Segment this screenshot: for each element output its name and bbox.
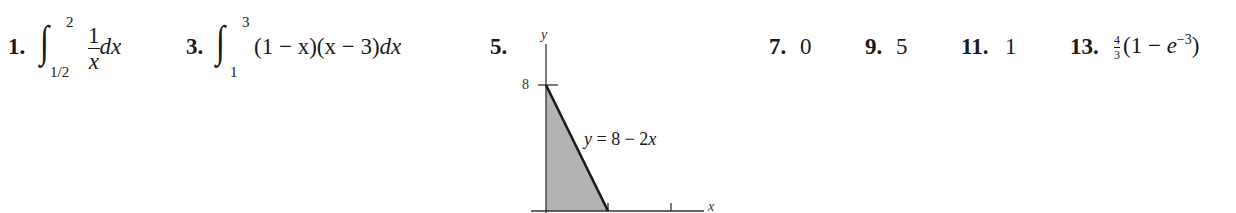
y-axis-label: y [541,27,547,43]
problem-9-number: 9. [865,34,882,60]
problem-1-integrand: 1 x dx [88,24,121,73]
problem-13-answer: 4 3 (1 − e−3) [1114,32,1199,61]
problem-9-answer: 5 [896,34,908,60]
problem-7-number: 7. [769,34,786,60]
coef-denominator: 3 [1114,49,1120,61]
x-axis-label: x [708,199,714,213]
problem-13-number: 13. [1070,34,1099,60]
problem-7-answer: 0 [800,34,812,60]
problem-3-integrand: (1 − x)(x − 3)dx [254,34,401,60]
problem-3-number: 3. [186,34,203,60]
problem-11-number: 11. [961,34,988,60]
expr-base: e [1167,33,1177,58]
expr-exponent: −3 [1177,32,1192,47]
graph-svg [520,28,720,213]
integral-sign-icon: ∫ [216,20,225,64]
problem-3-lower-limit: 1 [230,64,238,81]
y-tick-label: 8 [522,77,529,93]
coef-numerator: 4 [1114,34,1120,46]
problem-1-number: 1. [8,34,25,60]
problem-3-expression: (1 − x)(x − 3) [254,34,380,59]
problem-11-answer: 1 [1005,34,1017,60]
expr-open: (1 − [1123,33,1167,58]
problem-3-upper-limit: 3 [242,14,250,31]
problem-1-numerator: 1 [88,24,100,47]
expr-close: ) [1192,33,1200,58]
problem-5-number: 5. [490,34,507,60]
problem-1-upper-limit: 2 [66,14,74,31]
integral-sign-icon: ∫ [40,20,49,64]
curve-label: y = 8 − 2x [584,129,656,150]
problem-3-differential: dx [380,34,402,59]
problem-1-lower-limit: 1/2 [50,64,69,81]
problem-5-graph [520,28,720,213]
problem-1-differential: dx [100,34,122,59]
problem-1-denominator: x [88,50,100,73]
